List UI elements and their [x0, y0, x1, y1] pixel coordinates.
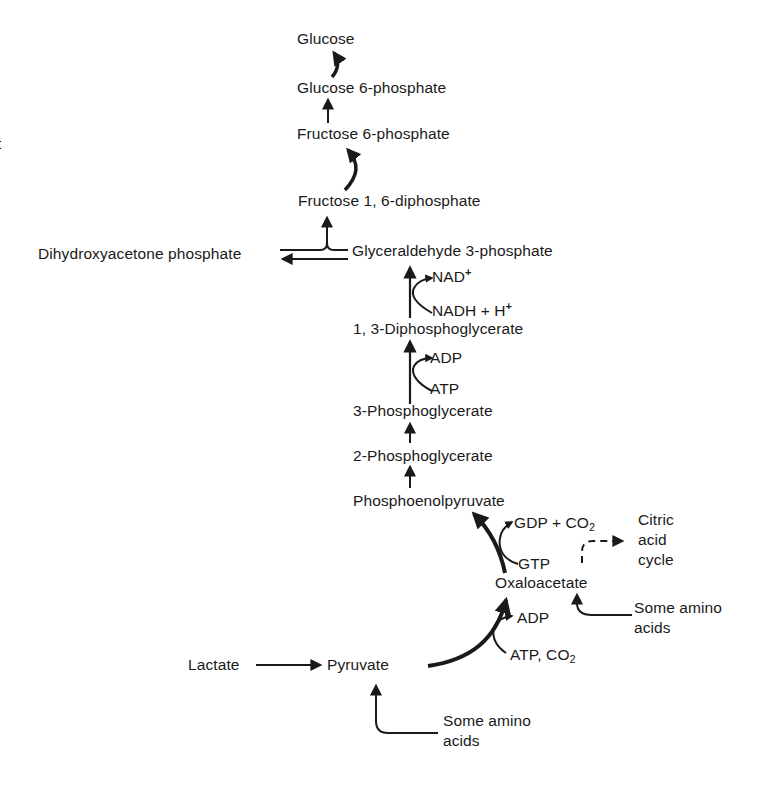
stray-text-fragment: t — [0, 135, 1, 153]
arrow-oaa-to-citric — [582, 541, 622, 563]
arrow-g6p-to-glucose — [332, 53, 338, 77]
cofactor-gtp: GTP — [518, 555, 550, 573]
node-glyceraldehyde-3-phosphate: Glyceraldehyde 3-phosphate — [352, 242, 553, 260]
cofactor-adp-lower: ADP — [517, 609, 549, 627]
node-dihydroxyacetone-phosphate: Dihydroxyacetone phosphate — [38, 245, 241, 263]
cofactor-gdp-co2: GDP + CO2 — [514, 514, 595, 532]
cofactor-adp-upper: ADP — [430, 349, 462, 367]
arrow-nadh-to-nad — [413, 278, 432, 313]
cofactor-atp-co2: ATP, CO2 — [510, 646, 576, 664]
arrow-f16dp-to-f6p — [345, 150, 356, 190]
node-phosphoenolpyruvate: Phosphoenolpyruvate — [353, 492, 505, 510]
gluconeogenesis-diagram: t Glucose Glucose 6-phosphate Fructose 6… — [0, 0, 775, 788]
node-2-phosphoglycerate: 2-Phosphoglycerate — [353, 447, 493, 465]
node-oxaloacetate: Oxaloacetate — [495, 574, 588, 592]
node-1-3-diphosphoglycerate: 1, 3-Diphosphoglycerate — [353, 320, 523, 338]
node-citric-acid-cycle: Citric acid cycle — [638, 510, 674, 570]
arrow-amino-to-pyruvate — [376, 686, 438, 733]
node-amino-acids-pyruvate: Some amino acids — [443, 711, 531, 751]
arrow-amino-to-oaa — [577, 595, 632, 615]
node-amino-acids-oxaloacetate: Some amino acids — [634, 598, 722, 638]
arrow-triose-to-f16dp — [280, 218, 327, 250]
node-3-phosphoglycerate: 3-Phosphoglycerate — [353, 402, 493, 420]
node-fructose-6-phosphate: Fructose 6-phosphate — [297, 125, 450, 143]
node-fructose-1-6-diphosphate: Fructose 1, 6-diphosphate — [298, 192, 481, 210]
cofactor-atp-upper: ATP — [430, 380, 459, 398]
node-lactate: Lactate — [188, 656, 240, 674]
node-glucose: Glucose — [297, 30, 355, 48]
cofactor-nadh-h: NADH + H+ — [432, 302, 512, 320]
node-glucose-6-phosphate: Glucose 6-phosphate — [297, 79, 446, 97]
cofactor-nad-plus: NAD+ — [432, 268, 472, 286]
node-pyruvate: Pyruvate — [327, 656, 389, 674]
